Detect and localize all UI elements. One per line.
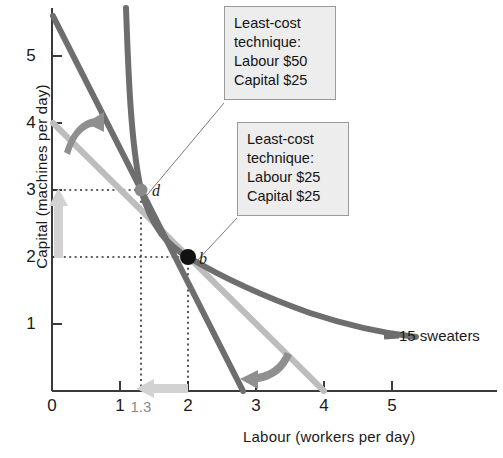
- callout-2-line-2: technique:: [247, 149, 339, 168]
- y-tick-label-2: 2: [20, 247, 42, 267]
- callout-1-line-1: Least-cost: [234, 14, 326, 33]
- callout-1-line-3: Labour $50: [234, 52, 326, 71]
- callout-2-line-3: Labour $25: [247, 168, 339, 187]
- x-tick-label-0: 0: [41, 396, 63, 416]
- isocost-rotate-arrow-upper: [64, 112, 104, 155]
- isoquant-label-connector: [384, 336, 399, 337]
- x-axis-title: Labour (workers per day): [243, 428, 415, 445]
- point-label-b: b: [199, 250, 207, 268]
- callout-1-line-2: technique:: [234, 33, 326, 52]
- y-tick-label-5: 5: [20, 46, 42, 66]
- isocost-rotate-arrow-lower: [240, 352, 292, 389]
- callout-least-cost-labour-25: Least-cost technique: Labour $25 Capital…: [237, 122, 349, 216]
- data-point-d[interactable]: [135, 184, 148, 197]
- y-tick-label-1: 1: [20, 314, 42, 334]
- x-tick-label-2: 2: [177, 396, 199, 416]
- data-point-b[interactable]: [180, 249, 196, 265]
- callout-2-line-1: Least-cost: [247, 130, 339, 149]
- guide-lines: [53, 190, 188, 390]
- x-tick-label-1-3: 1.3: [126, 398, 156, 415]
- x-tick-label-4: 4: [313, 396, 335, 416]
- callout-least-cost-labour-50: Least-cost technique: Labour $50 Capital…: [224, 6, 336, 100]
- x-tick-label-5: 5: [381, 396, 403, 416]
- y-tick-label-3: 3: [20, 180, 42, 200]
- isoquant-isocost-chart: Capital (machines per day) Labour (worke…: [0, 0, 503, 458]
- callout-2-line-4: Capital $25: [247, 187, 339, 206]
- y-tick-label-4: 4: [20, 113, 42, 133]
- point-label-d: d: [152, 182, 160, 200]
- x-tick-label-3: 3: [245, 396, 267, 416]
- callout-1-line-4: Capital $25: [234, 71, 326, 90]
- isoquant-curve-label: 15 sweaters: [399, 327, 480, 344]
